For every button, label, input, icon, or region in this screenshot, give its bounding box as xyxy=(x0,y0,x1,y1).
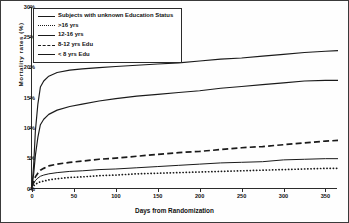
x-tick-label: 350 xyxy=(321,193,330,199)
x-tick-label: 100 xyxy=(111,193,120,199)
x-tick-label: 0 xyxy=(30,193,33,199)
series-line xyxy=(32,51,338,187)
legend-swatch-solid-icon xyxy=(37,11,55,20)
x-tick-mark xyxy=(242,189,243,192)
y-axis-title: Mortality rates (%) xyxy=(17,0,24,110)
legend-item: < 8 yrs Edu xyxy=(37,49,178,59)
legend-label: 12-16 yrs xyxy=(58,30,84,39)
x-tick-mark xyxy=(200,189,201,192)
legend-item: Subjects with unknown Education Status xyxy=(37,11,178,21)
legend-label: 8-12 yrs Edu xyxy=(58,40,93,49)
legend-swatch-dashed-icon xyxy=(37,40,55,49)
legend-label: < 8 yrs Edu xyxy=(58,50,90,59)
series-line xyxy=(32,140,338,186)
legend-swatch-dotted-icon xyxy=(37,21,55,30)
x-tick-mark xyxy=(32,189,33,192)
legend-item: 8-12 yrs Edu xyxy=(37,40,178,50)
legend-swatch-solid-icon xyxy=(37,50,55,59)
legend-label: >16 yrs xyxy=(58,21,78,30)
x-tick-label: 300 xyxy=(279,193,288,199)
x-axis-title: Days from Randomization xyxy=(1,207,348,214)
x-tick-mark xyxy=(116,189,117,192)
x-tick-label: 50 xyxy=(71,193,77,199)
x-tick-mark xyxy=(74,189,75,192)
legend-label: Subjects with unknown Education Status xyxy=(58,11,173,20)
chart-legend: Subjects with unknown Education Status>1… xyxy=(33,8,182,63)
x-tick-mark xyxy=(325,189,326,192)
legend-item: >16 yrs xyxy=(37,21,178,31)
x-tick-mark xyxy=(158,189,159,192)
x-tick-label: 150 xyxy=(153,193,162,199)
legend-swatch-solid-thin-icon xyxy=(37,30,55,39)
legend-item: 12-16 yrs xyxy=(37,30,178,40)
x-tick-label: 250 xyxy=(237,193,246,199)
chart-figure: Mortality rates (%) Days from Randomizat… xyxy=(0,0,349,223)
series-line xyxy=(32,159,338,188)
x-tick-mark xyxy=(284,189,285,192)
x-tick-label: 200 xyxy=(195,193,204,199)
